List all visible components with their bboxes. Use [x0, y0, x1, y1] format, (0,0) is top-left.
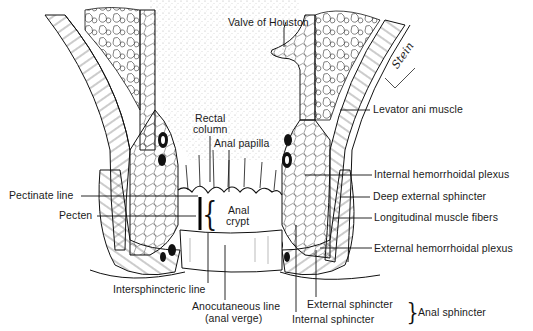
- label-levator-ani-muscle: Levator ani muscle: [373, 104, 463, 115]
- label-pectinate-line: Pectinate line: [9, 190, 73, 201]
- label-internal-hemorrhoidal-plexus: Internal hemorrhoidal plexus: [374, 169, 509, 180]
- label-longitudinal-muscle-fibers: Longitudinal muscle fibers: [374, 212, 498, 223]
- anatomy-drawing: [0, 0, 533, 331]
- label-rectal-column-line2: column: [193, 124, 227, 135]
- label-anal-sphincter: Anal sphincter: [418, 307, 486, 318]
- pecten-brace: {: [202, 196, 217, 230]
- label-anal-papilla: Anal papilla: [214, 138, 270, 149]
- label-anal-verge: (anal verge): [205, 313, 262, 324]
- label-anal-crypt-line2: crypt: [226, 216, 249, 227]
- label-internal-sphincter: Internal sphincter: [292, 314, 374, 325]
- anal-sphincter-brace: }: [407, 300, 419, 324]
- label-pecten: Pecten: [59, 210, 92, 221]
- label-anocutaneous-line: Anocutaneous line: [192, 301, 280, 312]
- label-deep-external-sphincter: Deep external sphincter: [373, 191, 486, 202]
- anal-canal-diagram: Valve of Houston Stein Levator ani muscl…: [0, 0, 533, 331]
- label-intersphincteric-line: Intersphincteric line: [113, 284, 206, 295]
- label-external-sphincter: External sphincter: [307, 299, 393, 310]
- label-valve-of-houston: Valve of Houston: [228, 17, 309, 28]
- label-external-hemorrhoidal-plexus: External hemorrhoidal plexus: [374, 243, 513, 254]
